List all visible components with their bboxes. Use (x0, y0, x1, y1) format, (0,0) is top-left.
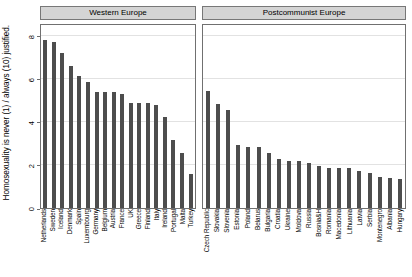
bar (236, 145, 240, 208)
panel-postcommunist-europe: Postcommunist Europe Czech RepublicSlova… (202, 6, 406, 277)
x-axis-label: Iceland (58, 209, 65, 229)
x-axis-label-text: Ukraine (285, 209, 291, 230)
y-axis-tick-label: 6 (28, 78, 36, 82)
y-axis-title: Homosexuality is never (1) / always (10)… (0, 0, 14, 225)
x-axis-label: France (119, 209, 126, 228)
bar (86, 82, 90, 208)
x-axis-label: Poland (244, 209, 251, 228)
bar (146, 103, 150, 208)
bar (180, 153, 184, 208)
bar-series-postcommunist-europe (203, 25, 405, 208)
bar (257, 147, 261, 208)
y-axis-title-text: Homosexuality is never (1) / always (10)… (3, 25, 11, 200)
x-axis-label: Slovenia (224, 209, 231, 233)
x-axis-label-text: France (119, 209, 125, 228)
bar (95, 92, 99, 208)
x-axis-label: Albania (387, 209, 394, 230)
x-axis-label: Latvia (356, 209, 363, 225)
bar (388, 178, 392, 208)
bar (368, 173, 372, 208)
bar (347, 168, 351, 208)
x-axis-label: Bosnia&H (316, 209, 323, 237)
x-axis-label: Ireland (162, 209, 169, 228)
x-axis-label: Belarus (255, 209, 262, 230)
bar (398, 179, 402, 208)
bar (267, 153, 271, 208)
x-axis-label: Luxembourg (84, 209, 91, 244)
x-axis-label-text: Italy (154, 209, 160, 220)
x-axis-label: Sweden (49, 209, 56, 232)
x-axis-label: Turkey (188, 209, 195, 228)
x-axis-label: Italy (153, 209, 160, 220)
x-axis-labels-postcommunist-europe: Czech RepublicSlovakiaSloveniaEstoniaPol… (202, 209, 406, 277)
bar (246, 147, 250, 208)
x-axis-label: Montenegro (377, 209, 384, 242)
x-axis-label-text: Poland (245, 209, 251, 228)
bar (357, 171, 361, 208)
bar (287, 161, 291, 208)
x-axis-label-text: Belgium (102, 209, 108, 231)
x-axis-label-text: Bosnia&H (316, 209, 322, 237)
bar (171, 140, 175, 208)
x-axis-label: Estonia (234, 209, 241, 230)
x-axis-label: Serbia (367, 209, 374, 227)
chart-figure: Homosexuality is never (1) / always (10)… (0, 0, 412, 277)
bar (43, 40, 47, 208)
bar (120, 94, 124, 208)
x-axis-label: Spain (75, 209, 82, 225)
bar (277, 159, 281, 208)
x-axis-label: Denmark (67, 209, 74, 234)
x-axis-label-text: Iceland (58, 209, 64, 229)
bar (317, 166, 321, 208)
panel-strip-postcommunist-europe: Postcommunist Europe (202, 6, 406, 20)
x-axis-label-text: Ireland (162, 209, 168, 228)
x-axis-label: Finland (145, 209, 152, 229)
x-axis-label-text: Luxembourg (84, 209, 90, 244)
x-axis-label: Belgium (101, 209, 108, 231)
x-axis-label: Moldova (295, 209, 302, 232)
x-axis-label: Croatia (275, 209, 282, 229)
x-axis-label-text: Finland (145, 209, 151, 229)
x-axis-labels-western-europe: NetherlandsSwedenIcelandDenmarkSpainLuxe… (40, 209, 196, 277)
y-axis: 02468 (14, 24, 40, 209)
panel-western-europe: Western Europe NetherlandsSwedenIcelandD… (40, 6, 196, 277)
x-axis-label-text: Greece (136, 209, 142, 229)
x-axis-label: Ukraine (285, 209, 292, 230)
bar (112, 92, 116, 208)
bar (216, 104, 220, 208)
x-axis-label: Portugal (171, 209, 178, 232)
x-axis-label-text: Denmark (67, 209, 73, 234)
y-axis-tick-label: 8 (28, 35, 36, 39)
x-axis-label-text: Moldova (296, 209, 302, 232)
bar (69, 66, 73, 208)
bar (52, 42, 56, 208)
y-axis-tick-label: 0 (28, 207, 36, 211)
x-axis-label: Czech Republic (204, 209, 211, 252)
panel-strip-label: Western Europe (89, 9, 147, 17)
x-axis-label: Lithuania (346, 209, 353, 234)
x-axis-label-text: Germany (93, 209, 99, 235)
bar (206, 91, 210, 208)
x-axis-label-text: Bulgaria (265, 209, 271, 232)
x-axis-label-text: Romania (326, 209, 332, 234)
x-axis-label: UK (127, 209, 134, 218)
plot-area-western-europe (40, 24, 196, 209)
x-axis-label-text: Slovenia (224, 209, 230, 233)
x-axis-label-text: Netherlands (41, 209, 47, 242)
x-axis-label-text: Lithuania (347, 209, 353, 234)
x-axis-label: Malta (179, 209, 186, 224)
y-axis-tick-label: 4 (28, 121, 36, 125)
x-axis-label-text: Serbia (367, 209, 373, 227)
x-axis-label-text: Czech Republic (204, 209, 210, 252)
x-axis-label: Macedonia (336, 209, 343, 239)
x-axis-label: Germany (93, 209, 100, 235)
plot-area-postcommunist-europe (202, 24, 406, 209)
x-axis-label: Greece (136, 209, 143, 229)
x-axis-label: Slovakia (214, 209, 221, 232)
x-axis-label: Hungary (397, 209, 404, 232)
x-axis-label-text: Estonia (234, 209, 240, 230)
x-axis-label-text: Belarus (255, 209, 261, 230)
x-axis-label: Bulgaria (265, 209, 272, 232)
bar (154, 105, 158, 208)
x-axis-label-text: Austria (110, 209, 116, 228)
